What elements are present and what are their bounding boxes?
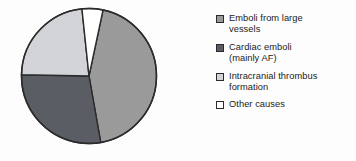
legend-label-emboli-large-vessels: Emboli from large vessels	[229, 13, 303, 36]
legend-swatch-intracranial-thrombus	[216, 73, 224, 81]
legend-swatch-emboli-large-vessels	[216, 15, 224, 23]
pie-chart-svg	[0, 0, 178, 161]
legend-item-intracranial-thrombus[interactable]: Intracranial thrombus formation	[216, 71, 356, 94]
legend-swatch-cardiac-emboli	[216, 44, 224, 52]
legend-label-intracranial-thrombus: Intracranial thrombus formation	[229, 71, 317, 94]
pie-chart-plot-area	[0, 0, 178, 161]
legend-swatch-other-causes	[216, 101, 224, 109]
pie-slice-intracranial-thrombus[interactable]	[22, 9, 89, 76]
legend-label-cardiac-emboli: Cardiac emboli (mainly AF)	[229, 42, 292, 65]
legend-item-cardiac-emboli[interactable]: Cardiac emboli (mainly AF)	[216, 42, 356, 65]
legend: Emboli from large vessels Cardiac emboli…	[216, 13, 356, 111]
legend-item-other-causes[interactable]: Other causes	[216, 99, 356, 110]
pie-slice-cardiac-emboli[interactable]	[21, 75, 100, 144]
pie-chart-figure: Emboli from large vessels Cardiac emboli…	[0, 0, 356, 161]
legend-item-emboli-large-vessels[interactable]: Emboli from large vessels	[216, 13, 356, 36]
legend-label-other-causes: Other causes	[229, 99, 285, 110]
